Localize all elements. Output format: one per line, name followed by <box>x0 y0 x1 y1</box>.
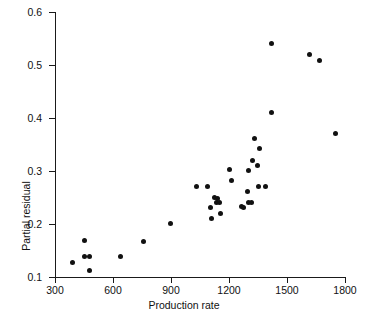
x-tick <box>287 277 288 283</box>
data-point <box>307 52 312 57</box>
data-point <box>209 216 214 221</box>
data-point <box>87 254 92 259</box>
data-point <box>229 178 234 183</box>
data-point <box>333 131 338 136</box>
data-point <box>82 254 87 259</box>
x-tick <box>113 277 114 283</box>
data-point <box>241 205 246 210</box>
y-axis-title: Partial residual <box>20 146 32 286</box>
x-tick-label: 1500 <box>267 285 307 295</box>
scatter-chart: 0.10.20.30.40.50.6 300600900120015001800… <box>0 0 368 320</box>
y-tick <box>49 224 55 225</box>
x-tick <box>55 277 56 283</box>
data-point <box>249 200 254 205</box>
x-tick <box>229 277 230 283</box>
data-point <box>218 211 223 216</box>
data-point <box>252 136 257 141</box>
x-tick-label: 300 <box>35 285 75 295</box>
x-axis-line <box>55 277 346 278</box>
y-tick <box>49 171 55 172</box>
y-axis-line <box>55 12 56 277</box>
y-tick <box>49 118 55 119</box>
data-point <box>70 260 75 265</box>
data-point <box>257 146 262 151</box>
data-point <box>227 167 232 172</box>
x-tick-label: 600 <box>93 285 133 295</box>
data-point <box>269 110 274 115</box>
y-axis-title-wrap: Partial residual <box>8 75 22 215</box>
data-point <box>194 184 199 189</box>
data-point <box>263 184 268 189</box>
data-point <box>141 239 146 244</box>
data-point <box>245 189 250 194</box>
data-point <box>269 41 274 46</box>
data-point <box>246 168 251 173</box>
y-tick-label: 0.6 <box>14 7 42 17</box>
data-point <box>317 58 322 63</box>
data-point <box>168 221 173 226</box>
y-tick <box>49 12 55 13</box>
y-tick <box>49 65 55 66</box>
x-tick-label: 900 <box>151 285 191 295</box>
data-point <box>118 254 123 259</box>
data-point <box>82 238 87 243</box>
data-point <box>255 163 260 168</box>
x-axis-title: Production rate <box>0 299 368 311</box>
x-tick <box>345 277 346 283</box>
data-point <box>256 184 261 189</box>
x-tick <box>171 277 172 283</box>
x-tick-label: 1800 <box>325 285 365 295</box>
data-point <box>208 205 213 210</box>
data-point <box>87 268 92 273</box>
data-point <box>205 184 210 189</box>
y-tick-label: 0.5 <box>14 60 42 70</box>
data-point <box>217 200 222 205</box>
x-tick-label: 1200 <box>209 285 249 295</box>
data-point <box>250 158 255 163</box>
